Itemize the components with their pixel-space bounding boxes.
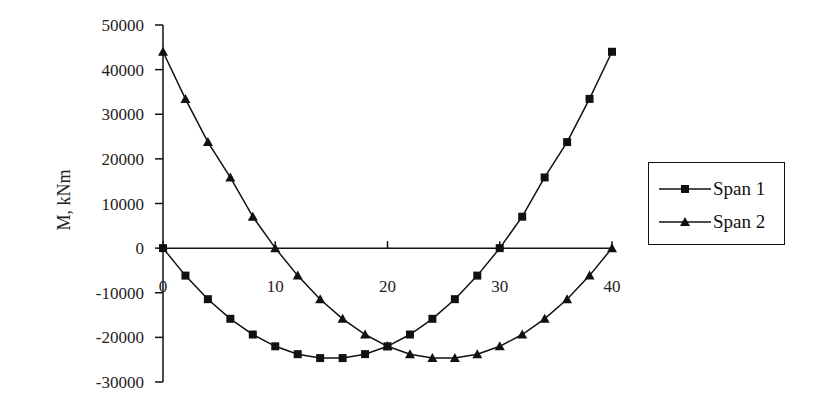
triangle-marker-icon [659, 212, 711, 232]
square-marker-icon [181, 272, 189, 280]
triangle-marker-icon [360, 330, 370, 339]
triangle-marker-icon [248, 212, 258, 221]
x-axis: 010203040 [159, 241, 621, 296]
square-marker-icon [361, 350, 369, 358]
square-marker-icon [339, 354, 347, 362]
y-tick-label: 20000 [102, 150, 145, 169]
x-tick-label: 0 [159, 277, 168, 296]
legend-item-span-2: Span 2 [649, 207, 765, 237]
square-marker-icon [659, 179, 711, 199]
x-tick-label: 40 [604, 277, 621, 296]
series-layer [158, 47, 617, 362]
y-tick-label: 30000 [102, 105, 145, 124]
square-marker-icon [271, 342, 279, 350]
square-marker-icon [159, 244, 167, 252]
y-axis: 50000400003000020000100000-10000-20000-3… [96, 16, 163, 392]
square-marker-icon [406, 331, 414, 339]
square-marker-icon [226, 315, 234, 323]
x-tick-label: 10 [267, 277, 284, 296]
legend-label: Span 2 [713, 211, 765, 233]
square-marker-icon [473, 272, 481, 280]
x-tick-label: 30 [491, 277, 508, 296]
triangle-marker-icon [225, 172, 235, 181]
triangle-marker-icon [180, 94, 190, 103]
square-marker-icon [496, 244, 504, 252]
triangle-marker-icon [158, 47, 168, 56]
triangle-marker-icon [495, 341, 505, 350]
square-marker-icon [541, 173, 549, 181]
legend-item-span-1: Span 1 [649, 174, 765, 204]
square-marker-icon [608, 48, 616, 56]
x-tick-label: 20 [379, 277, 396, 296]
y-tick-label: 50000 [102, 16, 145, 35]
square-marker-icon [294, 350, 302, 358]
triangle-marker-icon [517, 330, 527, 339]
square-marker-icon [316, 354, 324, 362]
y-tick-label: -30000 [96, 373, 144, 392]
series-span-1 [159, 48, 616, 362]
legend-label: Span 1 [713, 178, 765, 200]
square-marker-icon [428, 315, 436, 323]
y-tick-label: -10000 [96, 284, 144, 303]
y-axis-title: M, kNm [54, 169, 74, 230]
y-tick-label: -20000 [96, 328, 144, 347]
y-tick-label: 0 [136, 239, 145, 258]
square-marker-icon [518, 213, 526, 221]
square-marker-icon [204, 295, 212, 303]
square-marker-icon [249, 331, 257, 339]
y-tick-label: 40000 [102, 61, 145, 80]
triangle-marker-icon [203, 137, 213, 146]
y-tick-label: 10000 [102, 195, 145, 214]
square-marker-icon [451, 295, 459, 303]
square-marker-icon [586, 95, 594, 103]
legend: Span 1 Span 2 [648, 162, 785, 245]
square-marker-icon [563, 138, 571, 146]
